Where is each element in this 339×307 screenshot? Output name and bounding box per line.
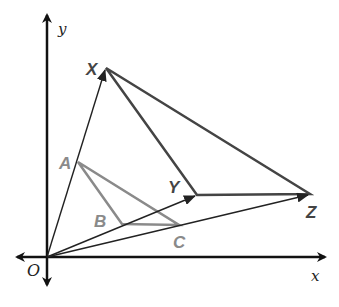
coordinate-diagram: y x O X Y Z A B C [0, 0, 339, 307]
point-label-a: A [58, 154, 71, 173]
origin-label: O [27, 261, 40, 280]
point-label-y: Y [168, 178, 181, 197]
point-label-b: B [94, 212, 106, 231]
x-axis-label: x [311, 267, 320, 285]
point-label-z: Z [305, 203, 317, 222]
triangle-xyz [106, 68, 310, 195]
dilation-vectors [47, 70, 308, 257]
point-label-x: X [85, 60, 99, 79]
point-label-c: C [173, 233, 186, 252]
axes [17, 15, 325, 285]
y-axis-label: y [57, 20, 67, 38]
